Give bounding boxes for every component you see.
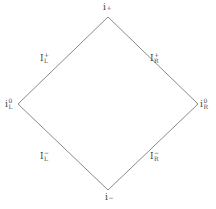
label-base: I [40, 151, 44, 161]
label-past-null-infinity-left: I−L [40, 150, 49, 162]
label-sub: R [154, 156, 159, 162]
label-left-spatial-infinity: i0L [5, 98, 12, 110]
label-past-null-infinity-right: I−R [150, 150, 159, 162]
label-top-timelike-future: i+ [103, 3, 111, 12]
penrose-diagram [0, 0, 216, 209]
diamond-outline [18, 17, 198, 190]
label-base: I [150, 151, 154, 161]
label-sub: L [44, 58, 49, 64]
label-right-spatial-infinity: i0R [200, 98, 208, 110]
label-sup: − [108, 195, 113, 201]
label-sub: L [44, 156, 49, 162]
label-future-null-infinity-left: I+L [40, 52, 49, 64]
label-future-null-infinity-right: I+R [150, 52, 159, 64]
label-sup: + [106, 5, 111, 11]
label-bottom-timelike-past: i− [105, 193, 113, 202]
label-sub: R [154, 58, 159, 64]
label-base: I [150, 53, 154, 63]
label-sub: R [203, 104, 208, 110]
label-sub: L [8, 104, 12, 110]
label-base: I [40, 53, 44, 63]
